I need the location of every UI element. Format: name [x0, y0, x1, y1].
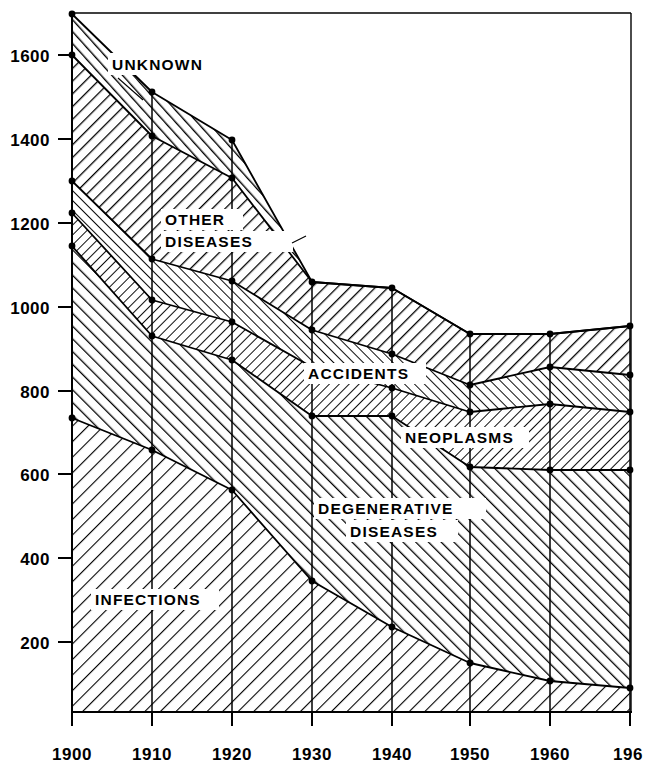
series-label-infections: INFECTIONS: [95, 591, 201, 608]
y-tick-label-1000: 1000: [10, 299, 50, 318]
series-label-accidents: ACCIDENTS: [308, 365, 409, 382]
y-tick-label-1600: 1600: [10, 47, 50, 66]
y-tick-label-1400: 1400: [10, 131, 50, 150]
y-tick-label-1200: 1200: [10, 215, 50, 234]
chart-canvas: 1600 1400 1200 1000 800 600 400 200 1900…: [0, 0, 646, 768]
y-tick-label-200: 200: [20, 634, 50, 653]
x-tick-label-1960: 1960: [530, 745, 570, 764]
y-tick-label-400: 400: [20, 550, 50, 569]
x-tick-label-1900: 1900: [52, 745, 92, 764]
x-tick-label-1910: 1910: [132, 745, 172, 764]
x-tick-label-1940: 1940: [372, 745, 412, 764]
x-tick-label-1950: 1950: [450, 745, 490, 764]
y-tick-label-600: 600: [20, 466, 50, 485]
mortality-stacked-area-chart: 1600 1400 1200 1000 800 600 400 200 1900…: [0, 0, 646, 768]
series-label-unknown: UNKNOWN: [112, 56, 203, 73]
y-tick-marks: [58, 55, 72, 642]
x-tick-label-1930: 1930: [292, 745, 332, 764]
x-tick-labels: 1900 1910 1920 1930 1940 1950 1960 196: [52, 745, 643, 764]
x-tick-label-1968: 196: [613, 745, 643, 764]
y-tick-labels: 1600 1400 1200 1000 800 600 400 200: [10, 47, 50, 653]
x-tick-label-1920: 1920: [212, 745, 252, 764]
series-label-neoplasms: NEOPLASMS: [405, 429, 514, 446]
series-label-degenerative-line1: DEGENERATIVE: [318, 500, 454, 517]
series-label-other-diseases-line1: OTHER: [165, 211, 225, 228]
y-tick-label-800: 800: [20, 383, 50, 402]
series-label-other-diseases-line2: DISEASES: [165, 233, 253, 250]
x-tick-marks: [72, 712, 630, 726]
series-label-degenerative-line2: DISEASES: [350, 523, 438, 540]
